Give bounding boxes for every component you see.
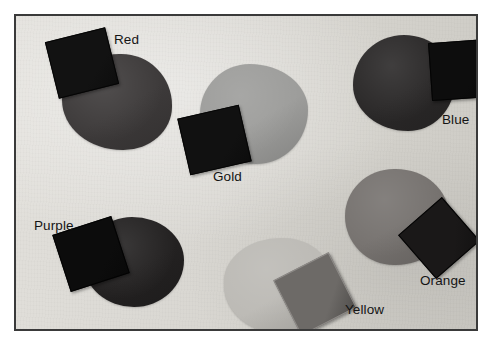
color-label-red: Red — [114, 33, 139, 47]
figure-root: RedGoldBluePurpleOrangeYellow — [0, 0, 492, 346]
color-label-gold: Gold — [213, 170, 242, 184]
color-label-yellow: Yellow — [345, 303, 384, 317]
color-swatch-face — [428, 39, 478, 101]
color-label-orange: Orange — [420, 274, 466, 288]
color-swatch-blue — [428, 39, 478, 101]
photograph-frame: RedGoldBluePurpleOrangeYellow — [14, 14, 478, 331]
color-label-blue: Blue — [442, 113, 469, 127]
color-label-purple: Purple — [34, 219, 74, 233]
